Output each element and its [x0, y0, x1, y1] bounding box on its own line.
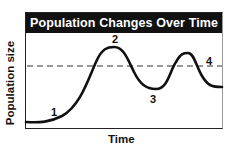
y-axis-label: Population size [4, 41, 16, 125]
point-label-1: 1 [51, 106, 57, 118]
point-label-4: 4 [206, 55, 213, 67]
plot-area: 1 2 3 4 [0, 0, 237, 153]
y-axis-label-wrap: Population size [2, 36, 18, 130]
point-label-3: 3 [150, 93, 156, 105]
x-axis-label: Time [108, 133, 135, 145]
point-label-2: 2 [112, 33, 118, 45]
